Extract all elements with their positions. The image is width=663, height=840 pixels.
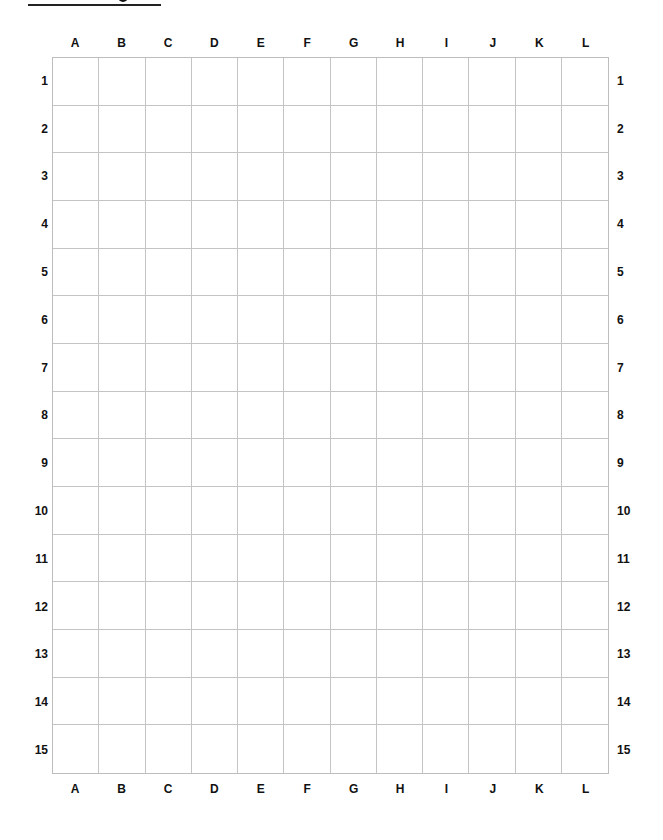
grid-cell-l10 xyxy=(562,487,608,535)
row-label-10: 10 xyxy=(617,505,647,517)
grid-cell-h7 xyxy=(377,344,423,392)
grid-cell-e12 xyxy=(238,582,284,630)
row-label-10: 10 xyxy=(22,505,48,517)
grid-cell-l6 xyxy=(562,296,608,344)
column-label-k: K xyxy=(516,783,562,795)
grid-cell-f9 xyxy=(284,439,330,487)
grid-cell-l3 xyxy=(562,153,608,201)
grid-cell-e10 xyxy=(238,487,284,535)
grid-cell-f1 xyxy=(284,58,330,106)
grid-cell-b5 xyxy=(99,249,145,297)
grid-cell-h4 xyxy=(377,201,423,249)
grid-cell-i13 xyxy=(423,630,469,678)
grid-cell-i15 xyxy=(423,725,469,773)
grid-cell-j9 xyxy=(469,439,515,487)
grid-cell-g4 xyxy=(331,201,377,249)
column-label-j: J xyxy=(470,783,516,795)
grid-cell-h2 xyxy=(377,106,423,154)
grid-cell-l8 xyxy=(562,392,608,440)
grid-cell-d1 xyxy=(192,58,238,106)
grid-cell-f6 xyxy=(284,296,330,344)
grid-cell-b9 xyxy=(99,439,145,487)
grid-cell-j11 xyxy=(469,535,515,583)
grid-cell-l9 xyxy=(562,439,608,487)
grid-cell-g2 xyxy=(331,106,377,154)
grid-cell-i14 xyxy=(423,678,469,726)
row-label-6: 6 xyxy=(22,314,48,326)
grid-cell-i7 xyxy=(423,344,469,392)
grid-cell-e6 xyxy=(238,296,284,344)
grid-cell-i2 xyxy=(423,106,469,154)
grid-cell-a7 xyxy=(53,344,99,392)
grid-cell-h12 xyxy=(377,582,423,630)
row-label-1: 1 xyxy=(617,75,647,87)
grid-cell-b14 xyxy=(99,678,145,726)
grid-cell-b15 xyxy=(99,725,145,773)
grid-cell-k2 xyxy=(516,106,562,154)
grid-cell-b8 xyxy=(99,392,145,440)
grid-cell-b3 xyxy=(99,153,145,201)
grid-cell-l11 xyxy=(562,535,608,583)
grid-cell-d6 xyxy=(192,296,238,344)
title-underline xyxy=(28,4,161,6)
grid-cell-l13 xyxy=(562,630,608,678)
grid-cell-k11 xyxy=(516,535,562,583)
grid-cell-e3 xyxy=(238,153,284,201)
grid-cell-e15 xyxy=(238,725,284,773)
grid-cell-b4 xyxy=(99,201,145,249)
row-label-8: 8 xyxy=(617,409,647,421)
row-label-15: 15 xyxy=(617,744,647,756)
column-label-f: F xyxy=(284,783,330,795)
column-label-h: H xyxy=(377,783,423,795)
grid-cell-d7 xyxy=(192,344,238,392)
grid-cell-a3 xyxy=(53,153,99,201)
grid-cell-c13 xyxy=(146,630,192,678)
column-label-a: A xyxy=(52,783,98,795)
row-label-14: 14 xyxy=(617,696,647,708)
grid-cell-g5 xyxy=(331,249,377,297)
column-label-d: D xyxy=(191,783,237,795)
row-label-7: 7 xyxy=(617,362,647,374)
column-label-j: J xyxy=(470,37,516,49)
column-label-h: H xyxy=(377,37,423,49)
column-label-g: G xyxy=(331,37,377,49)
grid-cell-h8 xyxy=(377,392,423,440)
grid-cell-d3 xyxy=(192,153,238,201)
row-label-3: 3 xyxy=(617,170,647,182)
grid-cell-c10 xyxy=(146,487,192,535)
grid-cell-h13 xyxy=(377,630,423,678)
grid-cell-l1 xyxy=(562,58,608,106)
grid-cell-d8 xyxy=(192,392,238,440)
column-label-a: A xyxy=(52,37,98,49)
grid-cell-a8 xyxy=(53,392,99,440)
grid-cell-e1 xyxy=(238,58,284,106)
grid-cell-c6 xyxy=(146,296,192,344)
grid-cell-e4 xyxy=(238,201,284,249)
grid-cell-i8 xyxy=(423,392,469,440)
grid-cell-e14 xyxy=(238,678,284,726)
grid-cell-f7 xyxy=(284,344,330,392)
row-label-7: 7 xyxy=(22,362,48,374)
row-label-12: 12 xyxy=(617,601,647,613)
grid-cell-c9 xyxy=(146,439,192,487)
row-label-6: 6 xyxy=(617,314,647,326)
column-label-c: C xyxy=(145,783,191,795)
row-label-3: 3 xyxy=(22,170,48,182)
grid-cell-h9 xyxy=(377,439,423,487)
grid-cell-e13 xyxy=(238,630,284,678)
grid-cell-g8 xyxy=(331,392,377,440)
grid-cell-j12 xyxy=(469,582,515,630)
column-label-g: G xyxy=(331,783,377,795)
grid-cell-a10 xyxy=(53,487,99,535)
grid-cell-a13 xyxy=(53,630,99,678)
grid-cell-i9 xyxy=(423,439,469,487)
grid-cell-b13 xyxy=(99,630,145,678)
column-label-b: B xyxy=(98,783,144,795)
grid-cell-d9 xyxy=(192,439,238,487)
grid-cell-j7 xyxy=(469,344,515,392)
grid-cell-b10 xyxy=(99,487,145,535)
row-label-9: 9 xyxy=(617,457,647,469)
grid-cell-k9 xyxy=(516,439,562,487)
grid-cell-b11 xyxy=(99,535,145,583)
column-label-l: L xyxy=(563,783,609,795)
